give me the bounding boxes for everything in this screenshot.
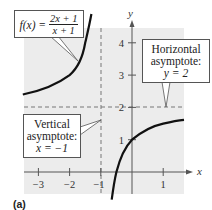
x-axis-label: x	[196, 165, 202, 177]
x-tick-label: −1	[93, 179, 104, 190]
function-lhs: f(x) =	[20, 19, 49, 31]
x-tick-label: −2	[64, 179, 75, 190]
horizontal-callout-line1: Horizontal	[143, 43, 209, 55]
vertical-callout-line3: x = −1	[24, 142, 80, 154]
function-callout: f(x) = 2x + 1x + 1	[14, 10, 84, 38]
x-axis-arrow-icon	[186, 170, 193, 175]
function-denominator: x + 1	[49, 25, 79, 36]
function-numerator: 2x + 1	[49, 13, 79, 25]
y-tick-label: 2	[119, 102, 124, 113]
y-axis-label: y	[127, 7, 133, 19]
horizontal-callout-line3: y = 2	[143, 67, 209, 79]
vertical-asymptote-callout: Vertical asymptote: x = −1	[23, 114, 81, 158]
panel-label: (a)	[13, 198, 26, 210]
rational-function-figure: −3 −2 −1 1 1 2 3 4 x y f(x) = 2x + 1x + …	[0, 0, 212, 210]
horizontal-asymptote-callout: Horizontal asymptote: y = 2	[142, 39, 210, 83]
y-axis-arrow-icon	[130, 20, 135, 27]
horizontal-callout-line2: asymptote:	[143, 55, 209, 67]
y-tick-label: 4	[119, 38, 125, 49]
function-fraction: 2x + 1x + 1	[49, 13, 79, 36]
y-tick-label: 1	[119, 135, 124, 146]
vertical-callout-line2: asymptote:	[24, 130, 80, 142]
y-tick-label: 3	[119, 70, 124, 81]
x-tick-label: 1	[161, 179, 166, 190]
x-tick-label: −3	[33, 179, 44, 190]
vertical-callout-line1: Vertical	[24, 118, 80, 130]
